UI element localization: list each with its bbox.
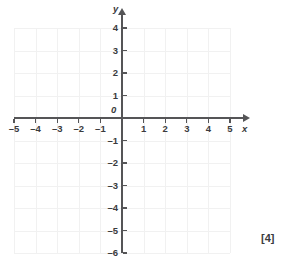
x-axis-arrow-icon: [243, 114, 250, 122]
coordinate-grid-figure: –5–4–3–2–1123454321–1–2–3–4–5–6 0 x y [4…: [0, 0, 285, 262]
x-axis-tick-label: 5: [220, 124, 240, 134]
x-axis-tick-label: 4: [198, 124, 218, 134]
y-axis-tick-label: –6: [100, 248, 118, 258]
y-axis-tick: [123, 230, 127, 231]
x-axis-tick-label: –3: [47, 124, 67, 134]
y-axis-label: y: [113, 4, 118, 14]
y-axis-tick: [123, 252, 127, 253]
y-axis-tick-label: 3: [100, 46, 118, 56]
y-axis-tick: [123, 207, 127, 208]
y-axis-tick-label: 4: [100, 23, 118, 33]
y-axis-tick-label: –2: [100, 158, 118, 168]
y-axis-arrow-icon: [118, 8, 126, 15]
y-axis-tick-label: –5: [100, 226, 118, 236]
y-axis-tick: [123, 27, 127, 28]
y-axis-tick: [123, 95, 127, 96]
x-axis-tick-label: 2: [155, 124, 175, 134]
x-axis-tick-label: 1: [134, 124, 154, 134]
y-axis-tick: [123, 162, 127, 163]
marks-annotation: [4]: [261, 232, 274, 244]
x-axis-tick-label: –2: [69, 124, 89, 134]
y-axis-tick-label: –1: [100, 136, 118, 146]
y-axis-tick-label: –3: [100, 181, 118, 191]
y-axis-tick-label: 2: [100, 68, 118, 78]
y-axis-tick: [123, 140, 127, 141]
x-axis-label: x: [242, 124, 247, 134]
x-axis-tick-label: –5: [4, 124, 24, 134]
y-axis-tick: [123, 185, 127, 186]
x-axis-tick-label: –1: [90, 124, 110, 134]
y-axis-tick: [123, 72, 127, 73]
y-axis-tick: [123, 50, 127, 51]
y-axis-tick-label: –4: [100, 203, 118, 213]
y-axis-tick-label: 1: [100, 91, 118, 101]
origin-label: 0: [111, 105, 116, 115]
x-axis-tick-label: –4: [26, 124, 46, 134]
x-axis-tick-label: 3: [177, 124, 197, 134]
